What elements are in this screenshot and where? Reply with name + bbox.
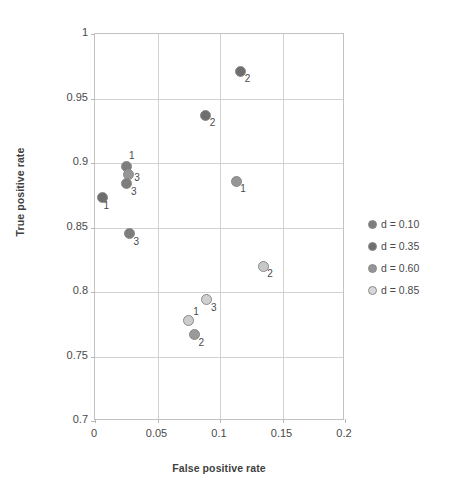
plot-area: 221331132312 [94,33,344,420]
y-tick-label: 0.85 [38,221,88,232]
legend-item[interactable]: d = 0.85 [368,279,456,301]
x-tick-label: 0.05 [132,428,182,439]
data-point-label: 2 [245,74,251,84]
tick-mark [91,228,95,229]
data-point-label: 1 [240,184,246,194]
x-axis-title: False positive rate [94,462,344,474]
tick-mark [345,419,346,423]
y-tick-label: 0.8 [38,285,88,296]
tick-mark [91,99,95,100]
gridline-horizontal [95,99,343,100]
y-axis-title: True positive rate [14,132,26,252]
legend-item-label: d = 0.35 [381,240,419,252]
data-point-label: 2 [210,118,216,128]
x-tick-label: 0 [69,428,119,439]
legend-item-label: d = 0.60 [381,262,419,274]
y-tick-label: 0.95 [38,92,88,103]
tick-mark [158,419,159,423]
y-tick-label: 1 [38,27,88,38]
data-point-label: 3 [133,237,139,247]
data-point-label: 1 [104,201,110,211]
gridline-horizontal [95,357,343,358]
data-point-label: 1 [193,307,199,317]
gridline-horizontal [95,292,343,293]
x-tick-label: 0.15 [257,428,307,439]
tick-mark [91,34,95,35]
legend-item-label: d = 0.10 [381,218,419,230]
data-point-label: 1 [129,151,135,161]
x-tick-label: 0.1 [194,428,244,439]
y-tick-label: 0.9 [38,156,88,167]
legend-item[interactable]: d = 0.10 [368,213,456,235]
legend-item[interactable]: d = 0.35 [368,235,456,257]
legend-marker-icon [368,286,377,295]
gridline-vertical [283,34,284,419]
y-tick-label: 0.75 [38,350,88,361]
data-point-label: 3 [131,187,137,197]
gridline-vertical [158,34,159,419]
data-point-label: 2 [267,269,273,279]
tick-mark [91,292,95,293]
legend-marker-icon [368,220,377,229]
legend-item-label: d = 0.85 [381,284,419,296]
chart-legend: d = 0.10d = 0.35d = 0.60d = 0.85 [368,213,456,301]
y-tick-label: 0.7 [38,414,88,425]
tick-mark [283,419,284,423]
gridline-horizontal [95,163,343,164]
scatter-chart-figure: True positive rate 0.70.750.80.850.90.95… [0,0,457,500]
tick-mark [91,163,95,164]
legend-marker-icon [368,242,377,251]
tick-mark [91,357,95,358]
data-point-label: 3 [211,303,217,313]
data-point-label: 2 [198,338,204,348]
data-point [183,315,194,326]
tick-mark [220,419,221,423]
data-point-label: 3 [134,173,140,183]
legend-marker-icon [368,264,377,273]
legend-item[interactable]: d = 0.60 [368,257,456,279]
gridline-vertical [220,34,221,419]
tick-mark [95,419,96,423]
x-tick-label: 0.2 [319,428,369,439]
